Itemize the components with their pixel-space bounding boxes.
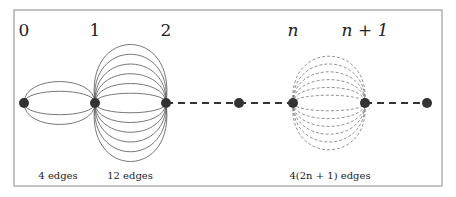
node-label-1: 1 xyxy=(90,20,101,40)
multi-edge xyxy=(24,103,95,124)
multi-edge xyxy=(293,87,365,103)
node-label-0: 0 xyxy=(19,20,30,40)
node-label-n: n xyxy=(288,20,299,40)
graph-node xyxy=(90,98,100,108)
graph-node xyxy=(161,98,171,108)
graph-node xyxy=(360,98,370,108)
edge-count-label-1-2: 12 edges xyxy=(107,170,153,181)
node-label-n-plus-1: n + 1 xyxy=(342,20,389,40)
multi-edge xyxy=(293,103,365,111)
multi-edge xyxy=(293,103,365,119)
graph-node xyxy=(288,98,298,108)
multi-edge xyxy=(293,95,365,103)
node-label-2: 2 xyxy=(161,20,172,40)
graph-node xyxy=(422,98,432,108)
multi-edge xyxy=(24,82,95,103)
multi-edge xyxy=(95,103,166,113)
multi-edge xyxy=(24,103,95,115)
multi-edge xyxy=(24,91,95,103)
multi-edge xyxy=(95,93,166,103)
graph-node xyxy=(234,98,244,108)
edge-count-label-0-1: 4 edges xyxy=(38,170,77,181)
graph-node xyxy=(19,98,29,108)
edge-count-label-n: 4(2n + 1) edges xyxy=(289,170,370,181)
